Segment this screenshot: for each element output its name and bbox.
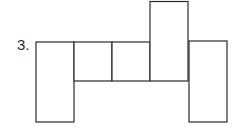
middle-face-1 <box>74 42 112 81</box>
left-face <box>36 42 74 122</box>
top-face <box>150 2 188 82</box>
cube-net-diagram <box>0 0 232 129</box>
right-face <box>189 41 227 122</box>
middle-face-2 <box>112 42 150 81</box>
